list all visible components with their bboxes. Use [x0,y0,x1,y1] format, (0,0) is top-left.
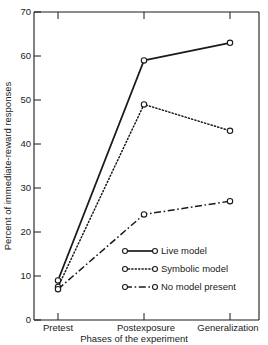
legend-marker-symbolic-model-end [153,267,158,272]
data-point-no-model-present-pretest [55,287,60,292]
y-tick-label-50: 50 [20,94,31,105]
data-point-live-model-generalization [227,40,232,45]
legend-marker-no-model-present-start [123,285,128,290]
data-point-no-model-present-postexposure [141,212,146,217]
y-axis-tick-labels: 70 60 50 40 30 20 10 0 [20,6,31,325]
legend: Live model Symbolic model No model prese… [123,245,237,292]
y-tick-label-70: 70 [20,6,31,17]
figure: 70 60 50 40 30 20 10 0 Pretest Postexpos… [0,0,268,345]
y-tick-label-60: 60 [20,50,31,61]
legend-label-live-model: Live model [161,245,207,256]
y-tick-label-10: 10 [20,270,31,281]
y-axis-ticks [34,12,41,320]
x-category-label-generalization: Generalization [197,322,258,333]
data-point-no-model-present-generalization [227,199,232,204]
y-axis-title: Percent of immediate-reward responses [2,82,13,251]
legend-marker-live-model-end [153,249,158,254]
legend-item-live-model[interactable]: Live model [123,245,207,256]
y-tick-label-30: 30 [20,182,31,193]
legend-marker-no-model-present-end [153,285,158,290]
legend-item-no-model-present[interactable]: No model present [123,281,237,292]
y-tick-label-20: 20 [20,226,31,237]
line-chart: 70 60 50 40 30 20 10 0 Pretest Postexpos… [0,0,268,345]
data-point-symbolic-model-postexposure [141,102,146,107]
x-axis-category-labels: Pretest Postexposure Generalization [43,322,259,333]
legend-label-no-model-present: No model present [161,281,236,292]
legend-label-symbolic-model: Symbolic model [161,263,228,274]
x-category-label-postexposure: Postexposure [117,322,175,333]
data-point-symbolic-model-generalization [227,128,232,133]
x-axis-title: Phases of the experiment [80,333,188,344]
data-point-live-model-postexposure [141,58,146,63]
legend-marker-live-model-start [123,249,128,254]
legend-item-symbolic-model[interactable]: Symbolic model [123,263,229,274]
y-tick-label-40: 40 [20,138,31,149]
x-category-label-pretest: Pretest [43,322,73,333]
legend-marker-symbolic-model-start [123,267,128,272]
series-symbolic-model [55,102,232,290]
y-tick-label-0: 0 [26,314,31,325]
series-line-symbolic-model [58,104,230,287]
axis-frame [34,12,259,320]
